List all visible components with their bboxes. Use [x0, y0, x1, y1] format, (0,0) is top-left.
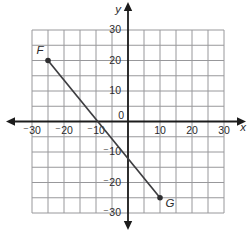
- y-tick-label: 10: [109, 84, 121, 96]
- x-tick-label: 10: [154, 124, 166, 136]
- x-tick-label: ⁻10: [87, 124, 105, 136]
- figure-background: [0, 0, 252, 234]
- y-tick-label: ⁻20: [103, 176, 121, 188]
- y-tick-label: 30: [109, 23, 121, 35]
- x-tick-label: ⁻20: [55, 124, 73, 136]
- point-G-dot: [157, 195, 163, 201]
- x-tick-label: 20: [186, 124, 198, 136]
- coordinate-grid-figure: xy⁻30⁻20⁻10102030302010⁻10⁻20⁻300FG: [0, 0, 252, 234]
- x-tick-label: 30: [218, 124, 230, 136]
- x-tick-label: ⁻30: [23, 124, 41, 136]
- y-tick-label: 20: [109, 54, 121, 66]
- point-F-label: F: [36, 44, 44, 56]
- origin-label: 0: [118, 109, 124, 121]
- coordinate-plane-svg: xy⁻30⁻20⁻10102030302010⁻10⁻20⁻300FG: [0, 0, 252, 234]
- point-F-dot: [45, 58, 51, 64]
- point-G-label: G: [166, 197, 175, 209]
- y-tick-label: ⁻30: [103, 206, 121, 218]
